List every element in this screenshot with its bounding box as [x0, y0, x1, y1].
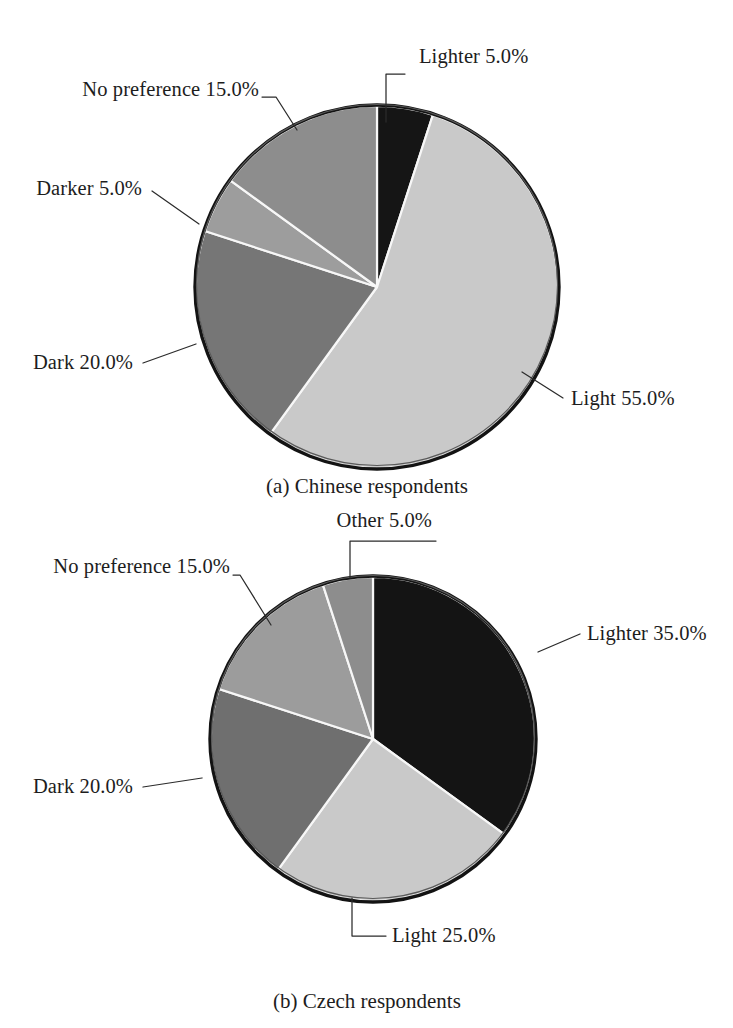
label-b-no-preference: No preference 15.0% — [53, 555, 230, 578]
label-a-dark: Dark 20.0% — [33, 351, 133, 373]
label-b-lighter: Lighter 35.0% — [587, 622, 707, 645]
leader-b-light — [352, 898, 386, 936]
chart-b-svg: Other 5.0% No preference 15.0% Dark 20.0… — [0, 500, 733, 1028]
label-a-darker: Darker 5.0% — [36, 177, 142, 199]
label-a-no-preference: No preference 15.0% — [82, 78, 259, 101]
leader-a-dark — [143, 344, 196, 363]
chart-a-svg: Lighter 5.0% No preference 15.0% Darker … — [0, 0, 733, 514]
leader-b-dark — [143, 778, 202, 787]
leader-b-lighter — [538, 634, 580, 652]
label-b-light: Light 25.0% — [392, 924, 496, 947]
pie-chart-chinese-respondents: Lighter 5.0% No preference 15.0% Darker … — [0, 0, 733, 514]
label-a-lighter: Lighter 5.0% — [419, 45, 528, 68]
leader-a-darker — [152, 191, 199, 224]
caption-a: (a) Chinese respondents — [266, 474, 468, 498]
label-b-dark: Dark 20.0% — [33, 775, 133, 797]
pie-chart-czech-respondents: Other 5.0% No preference 15.0% Dark 20.0… — [0, 500, 733, 1028]
caption-b: (b) Czech respondents — [273, 989, 461, 1013]
label-b-other: Other 5.0% — [336, 509, 432, 531]
leader-b-other — [350, 541, 436, 578]
label-a-light: Light 55.0% — [571, 387, 675, 410]
figure-two-pie-charts: Lighter 5.0% No preference 15.0% Darker … — [0, 0, 733, 1028]
